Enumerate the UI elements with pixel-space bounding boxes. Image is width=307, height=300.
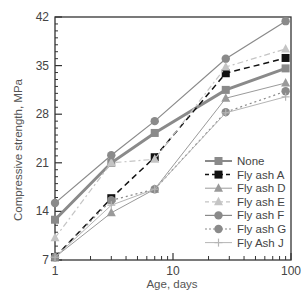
legend-item-fly-ash-j: Fly Ash J	[205, 237, 284, 249]
fly-ash-f-marker-icon	[222, 54, 230, 62]
fly-ash-f-marker-icon	[51, 199, 59, 207]
none-marker-icon	[51, 216, 59, 224]
y-axis-title-group: Compressive strength, MPa	[12, 78, 24, 220]
none-marker-icon	[222, 86, 230, 94]
y-tick-label: 42	[36, 10, 50, 24]
fly-ash-d-marker-icon	[281, 78, 290, 87]
legend-fly-ash-e-marker-icon	[214, 197, 223, 206]
legend-label: Fly ash F	[237, 209, 284, 221]
fly-ash-f-marker-icon	[107, 151, 115, 159]
fly-ash-e-marker-icon	[281, 44, 290, 53]
legend-item-fly-ash-f: Fly ash F	[205, 209, 284, 221]
x-axis-title: Age, days	[146, 278, 197, 290]
legend-label: Fly ash G	[237, 223, 286, 235]
legend-item-fly-ash-e: Fly ash E	[205, 196, 285, 208]
legend-label: Fly ash E	[237, 196, 285, 208]
legend-fly-ash-g-marker-icon	[214, 225, 222, 233]
y-tick-label: 21	[36, 156, 50, 170]
legend-item-fly-ash-d: Fly ash D	[205, 182, 286, 194]
legend-fly-ash-d-marker-icon	[214, 183, 223, 192]
y-axis-title: Compressive strength, MPa	[12, 78, 24, 220]
legend-item-fly-ash-a: Fly ash A	[205, 169, 285, 181]
none-marker-icon	[151, 129, 159, 137]
fly-ash-f-marker-icon	[151, 117, 159, 125]
legend-item-fly-ash-g: Fly ash G	[205, 223, 286, 235]
legend-label: Fly Ash J	[237, 237, 284, 249]
legend-fly-ash-f-marker-icon	[214, 211, 222, 219]
y-tick-label: 35	[36, 59, 50, 73]
y-tick-label: 14	[36, 204, 50, 218]
y-tick-label: 7	[42, 253, 49, 267]
none-marker-icon	[282, 64, 290, 72]
legend-label: None	[237, 155, 265, 167]
legend-label: Fly ash D	[237, 182, 286, 194]
fly-ash-f-marker-icon	[281, 17, 289, 25]
x-tick-label: 100	[281, 264, 301, 278]
fly-ash-a-marker-icon	[282, 54, 290, 62]
legend-fly-ash-a-marker-icon	[215, 171, 223, 179]
x-tick-label: 1	[52, 264, 59, 278]
legend-none-marker-icon	[215, 157, 223, 165]
x-tick-label: 10	[166, 264, 180, 278]
legend: NoneFly ash AFly ash DFly ash EFly ash F…	[205, 155, 286, 249]
compressive-strength-chart: Compressive strength, MPa Age, days 7142…	[0, 0, 307, 300]
y-tick-label: 28	[36, 107, 50, 121]
legend-label: Fly ash A	[237, 169, 285, 181]
legend-item-none: None	[205, 155, 265, 167]
